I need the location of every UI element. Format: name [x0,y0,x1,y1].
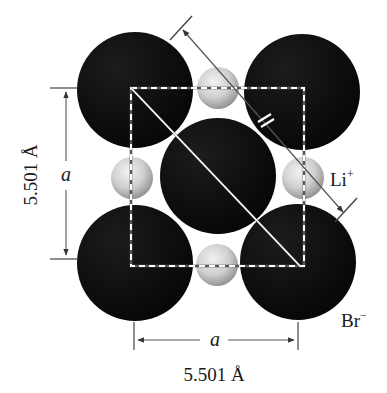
anion-charge: − [360,308,367,322]
br-ion-bottom-left [77,205,193,321]
cation-charge: + [347,167,354,181]
vertical-edge-symbol: a [61,163,71,185]
cation-label: Li+ [330,167,354,190]
anion-symbol: Br [341,310,361,331]
cation-symbol: Li [330,169,347,190]
horizontal-dimension: a 5.501 Å [134,322,298,385]
vertical-edge-length: 5.501 Å [20,144,41,206]
horizontal-edge-symbol: a [210,328,220,350]
br-ion-top-left [77,32,193,148]
anion-label: Br− [341,308,367,331]
diag-tick-bottom [335,198,357,222]
br-ion-top-right [244,34,360,150]
libr-unit-cell-diagram: a 5.501 Å a 5.501 Å Li+ Br− [0,0,387,393]
horizontal-edge-length: 5.501 Å [183,364,245,385]
vertical-dimension: a 5.501 Å [20,88,77,259]
